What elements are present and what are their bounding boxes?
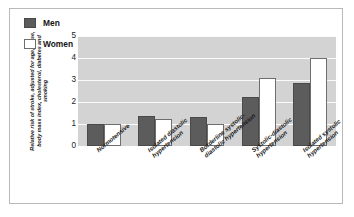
- legend-label-women: Women: [43, 39, 73, 49]
- y-tick-label: 2: [66, 97, 76, 106]
- chart-figure: Relative risk of stroke, adjusted for ag…: [9, 8, 343, 204]
- legend-swatch-men: [24, 18, 36, 28]
- legend-label-men: Men: [43, 18, 60, 28]
- legend-swatch-women: [24, 39, 36, 49]
- x-axis-labels: NormotensiveIsolated diastolic hypertens…: [78, 148, 336, 206]
- y-tick-label: 3: [66, 75, 76, 84]
- legend-item-men: Men: [24, 18, 73, 28]
- legend-item-women: Women: [24, 39, 73, 49]
- y-tick-label: 1: [66, 119, 76, 128]
- chart-legend: Men Women: [24, 18, 73, 60]
- y-tick-label: 0: [66, 141, 76, 150]
